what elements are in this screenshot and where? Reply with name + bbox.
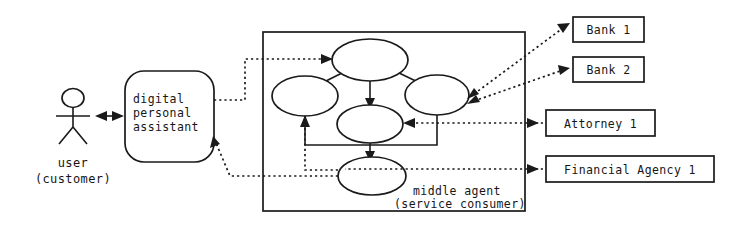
assistant-label-line1: digital: [133, 92, 184, 106]
middle-agent-label-line1: middle agent: [413, 184, 501, 198]
diagram-canvas: user (customer) digital personal assista…: [0, 0, 753, 232]
arrowhead-to-assistant: [112, 111, 124, 121]
service-label-attorney-1: Attorney 1: [564, 117, 637, 131]
middle-agent-label-line2: (service consumer): [394, 197, 526, 211]
agent-node-left[interactable]: [272, 76, 338, 116]
actor-label-line2: (customer): [35, 172, 111, 186]
agent-node-right[interactable]: [405, 75, 469, 115]
stick-figure-actor[interactable]: [56, 89, 90, 145]
service-label-financial-agency-1: Financial Agency 1: [564, 163, 696, 177]
assistant-label-line2: personal: [133, 106, 192, 120]
arrowhead-agent-to-financial-agency: [527, 164, 539, 174]
agent-node-top[interactable]: [332, 39, 408, 81]
agent-node-center[interactable]: [337, 105, 403, 143]
arrowhead-to-user: [95, 111, 107, 121]
service-label-bank-1: Bank 1: [587, 23, 631, 37]
diagram-svg: user (customer) digital personal assista…: [0, 0, 753, 232]
actor-head-icon: [62, 89, 84, 108]
actor-label-line1: user: [58, 156, 89, 170]
service-label-bank-2: Bank 2: [587, 63, 631, 77]
actor-leg-right: [73, 127, 87, 144]
arrowhead-to-bank-2: [558, 65, 570, 75]
assistant-label-line3: assistant: [133, 120, 199, 134]
arrowhead-agent-to-attorney: [527, 118, 539, 128]
agent-node-bottom[interactable]: [338, 157, 406, 195]
actor-leg-left: [59, 127, 73, 144]
